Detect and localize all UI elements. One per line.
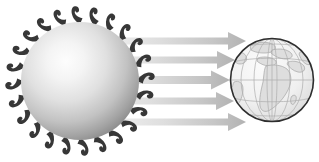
figure-canvas: Solar radiation from the Sun reaching th… — [0, 0, 319, 162]
globe — [230, 39, 314, 122]
solar-radiation-figure: Solar radiation from the Sun reaching th… — [0, 0, 319, 162]
sun-core — [21, 22, 139, 140]
